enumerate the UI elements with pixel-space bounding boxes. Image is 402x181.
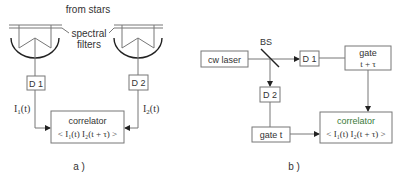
detector-b1-label: D 1 [302,54,316,64]
detector-b2-label: D 2 [263,90,277,100]
gate-delayed-label-1: gate [359,48,377,58]
gate-label: gate t [260,130,283,140]
correlator-a-title: correlator [68,116,106,126]
source-label: from stars [66,4,110,15]
signal-1-label: I1(t) [14,103,30,116]
filter-label-2: filters [77,39,101,50]
correlator-b-formula: < I₁(t) I₂(t + τ) > [326,129,385,139]
filter-leader-left [62,28,69,33]
correlator-a-formula: < I₁(t) I₂(t + τ) > [58,129,117,139]
filter-leader-right [109,28,114,33]
panel-a: from stars spectral filters D 1 [9,4,163,172]
signal-1-line [35,90,50,128]
correlator-b-title: correlator [337,116,375,126]
panel-b: cw laser BS D 1 gate t + τ D 2 gate t co… [201,37,392,172]
telescope-2-icon [114,25,163,75]
filter-label-1: spectral [71,28,106,39]
signal-2-label: I2(t) [143,103,159,116]
panel-a-title: a ) [73,161,85,172]
diagram-canvas: from stars spectral filters D 1 [0,0,402,181]
gate-delayed-label-2: t + τ [360,59,376,69]
detector-2-label: D 2 [131,78,145,88]
panel-b-title: b ) [288,161,300,172]
beamsplitter-label: BS [260,37,272,47]
laser-label: cw laser [208,55,241,65]
telescope-1-icon [9,25,62,76]
detector-1-label: D 1 [29,79,43,89]
signal-2-line [125,90,138,128]
